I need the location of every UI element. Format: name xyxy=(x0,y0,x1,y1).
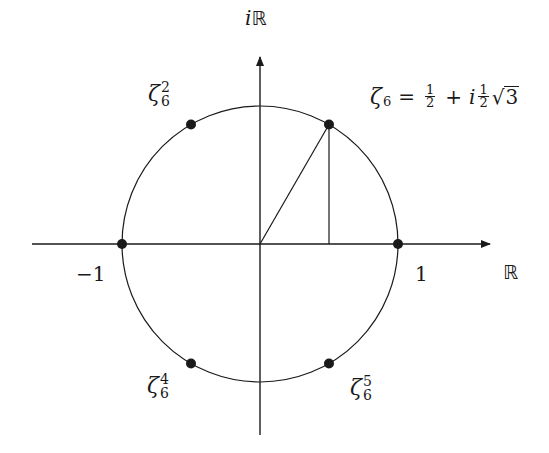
zeta2-sup: 2 xyxy=(161,80,170,94)
sqrt-radicand: 3 xyxy=(504,86,519,107)
point-zeta6-2 xyxy=(186,120,196,130)
zeta4-sup: 4 xyxy=(160,372,169,386)
zeta4-indices: 4 6 xyxy=(160,372,169,400)
formula-frac1: 1 2 xyxy=(425,84,435,109)
sqrt-icon: √ xyxy=(492,87,505,107)
formula-sqrt: √3 xyxy=(492,86,519,107)
zeta5-sup: 5 xyxy=(363,374,372,388)
zeta5-indices: 5 6 xyxy=(363,374,372,402)
real-label-R: ℝ xyxy=(503,261,518,283)
imag-label-R: ℝ xyxy=(251,7,266,29)
zeta2-sub: 6 xyxy=(161,94,170,108)
radius-line xyxy=(260,125,329,245)
zeta2-indices: 2 6 xyxy=(161,80,170,108)
zeta6-formula: ζ 6 = 1 2 + i 1 2 √3 xyxy=(370,84,519,109)
point-minus-one xyxy=(117,239,127,249)
unit-circle-diagram xyxy=(0,0,549,453)
label-zeta6-4: ζ 4 6 xyxy=(147,372,169,400)
formula-zeta: ζ xyxy=(370,86,382,108)
zeta4-sub: 6 xyxy=(160,386,169,400)
point-zeta6-4 xyxy=(186,359,196,369)
formula-i: i xyxy=(469,87,475,107)
formula-frac2: 1 2 xyxy=(478,84,488,109)
tick-neg-one: −1 xyxy=(76,264,105,284)
formula-zeta-sub: 6 xyxy=(383,95,391,108)
frac2-den: 2 xyxy=(478,97,488,109)
label-zeta6-5: ζ 5 6 xyxy=(350,374,372,402)
zeta5-base: ζ xyxy=(350,377,362,399)
frac1-den: 2 xyxy=(425,97,435,109)
point-zeta6-5 xyxy=(324,359,334,369)
zeta2-base: ζ xyxy=(148,83,160,105)
formula-plus: + xyxy=(445,87,462,107)
real-axis-label: ℝ xyxy=(503,262,518,282)
zeta5-sub: 6 xyxy=(363,388,372,402)
label-zeta6-2: ζ 2 6 xyxy=(148,80,170,108)
imaginary-axis-label: iℝ xyxy=(245,8,266,28)
zeta4-base: ζ xyxy=(147,375,159,397)
formula-equals: = xyxy=(398,87,415,107)
point-one xyxy=(393,239,403,249)
point-zeta6 xyxy=(324,120,334,130)
tick-pos-one: 1 xyxy=(415,264,428,284)
